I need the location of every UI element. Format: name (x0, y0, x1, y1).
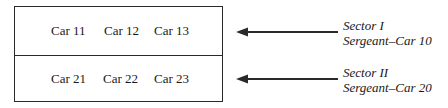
car-23: Car 23 (154, 71, 189, 87)
sector-box: Car 11 Car 12 Car 13 Car 21 Car 22 Car 2… (14, 6, 223, 102)
sector-2-label: Sector II Sergeant–Car 20 (343, 65, 432, 95)
car-11: Car 11 (51, 23, 86, 39)
car-22: Car 22 (103, 71, 138, 87)
sector-1-sergeant: Sergeant–Car 10 (343, 33, 432, 48)
arrow-left-icon (236, 74, 338, 84)
sector-2-row: Car 21 Car 22 Car 23 (15, 55, 222, 102)
sector-2-sergeant: Sergeant–Car 20 (343, 80, 432, 95)
sector-1-title: Sector I (343, 18, 432, 33)
car-12: Car 12 (104, 23, 139, 39)
car-13: Car 13 (154, 23, 189, 39)
sector-2-title: Sector II (343, 65, 432, 80)
arrow-left-icon (236, 27, 338, 37)
car-21: Car 21 (51, 71, 86, 87)
sector-1-row: Car 11 Car 12 Car 13 (15, 7, 222, 54)
sector-1-label: Sector I Sergeant–Car 10 (343, 18, 432, 48)
